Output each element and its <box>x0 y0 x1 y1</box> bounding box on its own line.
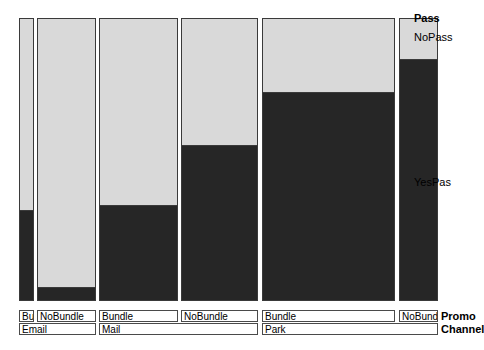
axis-box-promo-park-nobundle[interactable]: NoBundle <box>399 310 438 322</box>
channel-axis-title: Channel <box>441 323 484 335</box>
axis-box-channel-park[interactable]: Park <box>262 323 438 335</box>
axis-box-channel-mail[interactable]: Mail <box>99 323 258 335</box>
axis-box-promo-mail-nobundle[interactable]: NoBundle <box>181 310 258 322</box>
axis-box-channel-email[interactable]: Email <box>19 323 96 335</box>
promo-axis-title: Promo <box>441 310 476 322</box>
response-level-yespass-label: YesPas <box>414 176 466 188</box>
mosaic-column-mail-nobundle[interactable] <box>181 18 258 301</box>
mosaic-segment-yespass[interactable] <box>182 145 257 300</box>
mosaic-column-park-nobundle[interactable] <box>399 18 438 301</box>
axis-box-promo-email-nobundle[interactable]: NoBundle <box>37 310 96 322</box>
mosaic-segment-yespass[interactable] <box>20 210 33 300</box>
mosaic-segment-yespass[interactable] <box>100 205 177 300</box>
mosaic-segment-yespass[interactable] <box>263 92 394 300</box>
axis-box-promo-mail-bundle[interactable]: Bundle <box>99 310 178 322</box>
mosaic-column-email-bundle[interactable] <box>19 18 34 301</box>
mosaic-column-park-bundle[interactable] <box>262 18 395 301</box>
response-axis-title: Pass <box>414 12 440 24</box>
axis-box-promo-email-bundle[interactable]: Bu <box>19 310 34 322</box>
axis-box-promo-park-bundle[interactable]: Bundle <box>262 310 395 322</box>
response-level-nopass-label: NoPass <box>414 31 466 43</box>
mosaic-column-mail-bundle[interactable] <box>99 18 178 301</box>
mosaic-column-email-nobundle[interactable] <box>37 18 96 301</box>
mosaic-segment-yespass[interactable] <box>38 287 95 300</box>
